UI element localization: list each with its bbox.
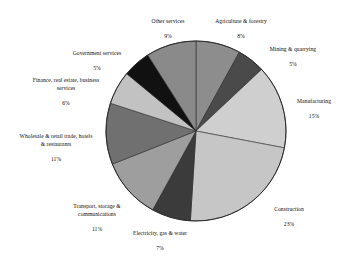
pie-label-construction: Construction 23%: [253, 199, 325, 236]
pie-label-electricity-value: 7%: [112, 245, 208, 252]
pie-label-construction-value: 23%: [253, 221, 325, 228]
pie-label-other-services-name: Other services: [133, 18, 203, 25]
pie-label-government: Government services 5%: [54, 43, 140, 80]
pie-label-finance-value: 6%: [16, 100, 116, 107]
pie-label-manufacturing: Manufacturing 15%: [281, 91, 347, 128]
pie-chart: Other services 9% Agriculture & forestry…: [0, 0, 351, 262]
pie-label-other-services: Other services 9%: [133, 11, 203, 48]
pie-label-wholesale-value: 11%: [6, 156, 106, 163]
pie-label-government-value: 5%: [54, 65, 140, 72]
pie-label-mining-name: Mining & quarrying: [252, 46, 334, 53]
pie-label-mining: Mining & quarrying 5%: [252, 39, 334, 76]
pie-label-government-name: Government services: [54, 50, 140, 57]
pie-label-manufacturing-name: Manufacturing: [281, 98, 347, 105]
pie-label-transport: Transport, storage & communications 11%: [52, 196, 142, 240]
pie-label-agriculture-name: Agriculture & forestry: [201, 18, 281, 25]
pie-label-other-services-value: 9%: [133, 33, 203, 40]
pie-label-mining-value: 5%: [252, 61, 334, 68]
pie-label-transport-value: 11%: [52, 226, 142, 233]
pie-label-wholesale: Wholesale & retail trade, hotels & resta…: [6, 126, 106, 170]
pie-label-construction-name: Construction: [253, 206, 325, 213]
pie-label-manufacturing-value: 15%: [281, 113, 347, 120]
pie-label-transport-name: Transport, storage & communications: [52, 203, 142, 218]
pie-label-wholesale-name: Wholesale & retail trade, hotels & resta…: [6, 133, 106, 148]
